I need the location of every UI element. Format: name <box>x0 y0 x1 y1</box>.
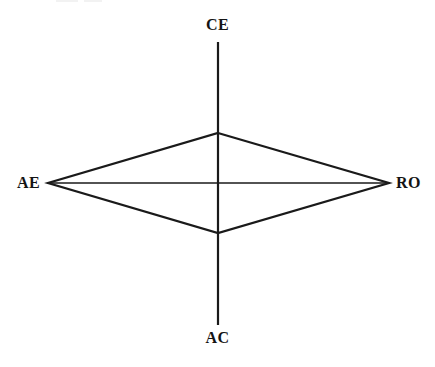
axis-label-ac: AC <box>0 330 435 346</box>
axis-label-ce: CE <box>0 17 435 33</box>
axis-label-ae: AE <box>17 175 40 191</box>
diagram-canvas: CE AC AE RO <box>0 0 435 367</box>
axis-label-ro: RO <box>396 175 421 191</box>
radar-diagram <box>0 0 435 367</box>
